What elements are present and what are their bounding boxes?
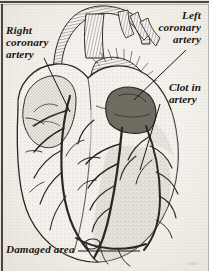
label-line: artery [159,34,201,46]
label-line: artery [169,94,201,106]
top-rule [0,1,209,3]
heart-anatomy-figure: Right coronary artery Left coronary arte… [0,0,209,271]
label-line: artery [6,49,48,61]
label-left-coronary-artery: Left coronary artery [159,10,201,46]
label-line: Damaged area [6,244,75,256]
right-rule [208,4,209,271]
label-damaged-area: Damaged area [6,244,75,256]
label-line: coronary [6,37,48,49]
scan-artifact [96,6,130,10]
top-rule-secondary [0,4,209,5]
scan-artifact [188,262,198,265]
label-line: coronary [159,22,201,34]
label-right-coronary-artery: Right coronary artery [6,25,48,61]
label-clot-in-artery: Clot in artery [169,82,201,106]
left-rule [1,4,3,271]
